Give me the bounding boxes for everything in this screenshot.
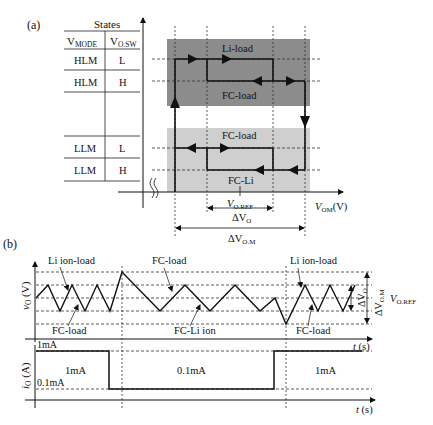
col-header-vmode: VMODE [67, 35, 97, 49]
annot-fc-load-2: FC-load [152, 255, 187, 266]
panel-b-label: (b) [3, 237, 17, 251]
io-level-high: 1mA [37, 339, 58, 350]
voltage-level-gridlines [36, 272, 372, 324]
panel-a-label: (a) [27, 18, 40, 32]
vo-axis-label: vO (V) [19, 281, 33, 310]
figure-canvas: (a) States VMODE VO.SW HLM L HLM H LLM L… [0, 0, 433, 425]
pointer-arrow [68, 305, 78, 326]
x-axis-label: VOM(V) [315, 201, 348, 214]
panel-a: (a) States VMODE VO.SW HLM L HLM H LLM L… [27, 18, 348, 246]
delta-vo-label: ΔVO [232, 212, 251, 225]
states-table: States VMODE VO.SW HLM L HLM H LLM L LLM… [64, 18, 140, 181]
io-segment-1: 1mA [65, 365, 86, 376]
row-mode: HLM [74, 77, 98, 88]
annot-li-ion-load-1: Li ion-load [48, 255, 96, 266]
annot-li-ion-load-2: Li ion-load [290, 255, 338, 266]
axis-break-icon [150, 178, 158, 198]
fc-load-label-upper: FC-load [222, 90, 257, 101]
pointer-arrow [298, 268, 301, 287]
io-segment-3: 1mA [315, 365, 336, 376]
arrow-down-icon [300, 116, 310, 128]
t-label-io: t (s) [356, 404, 373, 416]
fc-li-label: FC-Li [228, 175, 254, 186]
table-title: States [94, 18, 120, 30]
row-sw: L [119, 55, 125, 66]
row-mode: LLM [74, 165, 97, 176]
io-level-low: 0.1mA [37, 377, 65, 388]
io-axis-label: iO (A) [19, 362, 33, 389]
pointer-arrow [164, 268, 172, 291]
annot-fc-load-3: FC-load [296, 325, 331, 336]
row-mode: LLM [74, 143, 97, 154]
panel-b: (b) Li ion-load FC-load FC-load FC-Li io… [3, 237, 416, 416]
vref-label: VO.REF [227, 198, 253, 211]
mode-transition-gridlines [122, 266, 286, 408]
pointer-arrow [190, 305, 200, 326]
annot-fc-load-1: FC-load [52, 325, 87, 336]
figure: (a) States VMODE VO.SW HLM L HLM H LLM L… [0, 0, 433, 425]
annot-fc-li-ion: FC-Li ion [174, 325, 216, 336]
li-load-label: Li-load [222, 43, 254, 54]
pointer-arrow [60, 267, 68, 290]
row-mode: HLM [74, 55, 98, 66]
row-sw: L [119, 143, 125, 154]
io-segment-2: 0.1mA [177, 365, 206, 376]
row-sw: H [119, 77, 127, 88]
pointer-arrow [308, 305, 312, 326]
row-sw: H [119, 165, 127, 176]
delta-vom-label: ΔVO.M [228, 233, 256, 246]
fc-load-label-lower: FC-load [222, 130, 257, 141]
vref-label-b: VO.REF [390, 293, 416, 306]
delta-vom-label-b: ΔVO.M [373, 289, 386, 316]
col-header-vosw: VO.SW [110, 35, 137, 49]
